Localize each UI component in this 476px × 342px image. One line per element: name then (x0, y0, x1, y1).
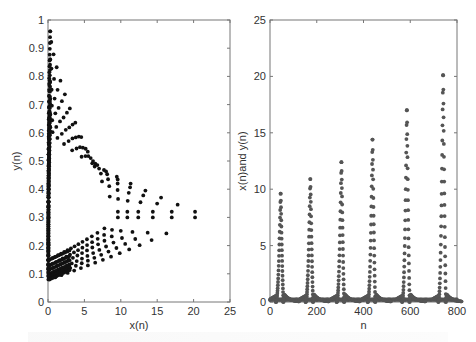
y-tick-label: 0.6 (29, 127, 44, 139)
y-tick-label: 0 (38, 296, 44, 308)
x-axis-label: x(n) (130, 319, 149, 331)
x-tick-label: 600 (401, 305, 419, 317)
series-points (268, 73, 463, 304)
x-tick-label: 0 (267, 305, 273, 317)
y-tick-label: 0.4 (29, 183, 44, 195)
orbit-points (46, 29, 196, 281)
x-tick-label: 200 (308, 305, 326, 317)
time-series-plot: 02004006008000510152025nx(n)and y(n) (236, 14, 466, 331)
y-tick-label: 0.9 (29, 42, 44, 54)
x-tick-label: 800 (448, 305, 466, 317)
y-axis-label: y(n) (10, 152, 22, 171)
y-tick-label: 1 (38, 14, 44, 26)
y-tick-label: 0.1 (29, 268, 44, 280)
figure-caption (28, 332, 448, 342)
y-tick-label: 15 (254, 127, 266, 139)
plot-frame (270, 20, 457, 302)
x-tick-label: 15 (151, 305, 163, 317)
x-tick-label: 20 (187, 305, 199, 317)
y-tick-label: 0 (260, 296, 266, 308)
x-tick-label: 5 (81, 305, 87, 317)
y-tick-label: 5 (260, 240, 266, 252)
y-tick-label: 25 (254, 14, 266, 26)
x-tick-label: 25 (224, 305, 236, 317)
y-tick-label: 0.7 (29, 99, 44, 111)
phase-plot: 051015202500.10.20.30.40.50.60.70.80.91x… (10, 14, 236, 331)
x-tick-label: 10 (115, 305, 127, 317)
y-tick-label: 20 (254, 70, 266, 82)
x-tick-label: 400 (354, 305, 372, 317)
figure: 051015202500.10.20.30.40.50.60.70.80.91x… (0, 0, 476, 342)
x-tick-label: 0 (45, 305, 51, 317)
y-tick-label: 0.3 (29, 211, 44, 223)
y-tick-label: 0.5 (29, 155, 44, 167)
y-tick-label: 10 (254, 183, 266, 195)
plot-frame (48, 20, 230, 302)
y-tick-label: 0.8 (29, 70, 44, 82)
y-axis-label: x(n)and y(n) (236, 131, 248, 190)
y-tick-label: 0.2 (29, 240, 44, 252)
x-axis-label: n (360, 319, 366, 331)
